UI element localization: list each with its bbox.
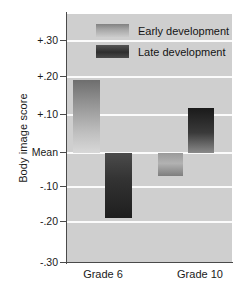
x-axis-line	[66, 262, 233, 263]
legend-item-late-development: Late development	[96, 42, 229, 61]
legend-item-early-development: Early development	[96, 21, 229, 40]
gridline-minus-20	[67, 221, 232, 223]
y-axis-title: Body image score	[17, 68, 29, 208]
bar-grade6-late-development	[105, 153, 132, 218]
y-tick-label-plus-20: +.20	[37, 70, 58, 82]
bar-grade10-early-development	[158, 153, 183, 176]
plot-area: Early development Late development	[67, 14, 232, 262]
bar-grade10-late-development	[188, 108, 214, 153]
bar-grade6-early-development	[73, 80, 100, 153]
legend-swatch-late-icon	[96, 45, 129, 58]
legend-label-early-development: Early development	[138, 25, 229, 37]
y-tick-label-minus-20: -.20	[40, 215, 58, 227]
x-tick-label-grade-6: Grade 6	[83, 268, 123, 280]
y-tick-mark-mean	[60, 152, 67, 153]
body-image-score-bar-chart: Body image score Early development Late …	[0, 0, 245, 301]
y-tick-label-plus-10: +.10	[37, 108, 58, 120]
y-tick-mark-plus-30	[60, 40, 67, 41]
y-tick-label-minus-30: -.30	[40, 256, 58, 268]
y-tick-mark-minus-30	[60, 262, 67, 263]
legend-swatch-early-icon	[96, 24, 129, 37]
y-tick-mark-minus-10	[60, 186, 67, 187]
chart-legend: Early development Late development	[96, 21, 229, 63]
legend-label-late-development: Late development	[138, 46, 225, 58]
y-tick-label-mean: Mean	[32, 146, 58, 158]
y-tick-mark-plus-20	[60, 76, 67, 77]
y-tick-label-minus-10: -.10	[40, 180, 58, 192]
x-tick-label-grade-10: Grade 10	[177, 268, 223, 280]
gridline-minus-10	[67, 186, 232, 188]
y-axis-line	[66, 12, 67, 264]
y-tick-label-plus-30: +.30	[37, 34, 58, 46]
y-tick-mark-minus-20	[60, 221, 67, 222]
y-tick-mark-plus-10	[60, 114, 67, 115]
gridline-plus-20	[67, 76, 232, 78]
